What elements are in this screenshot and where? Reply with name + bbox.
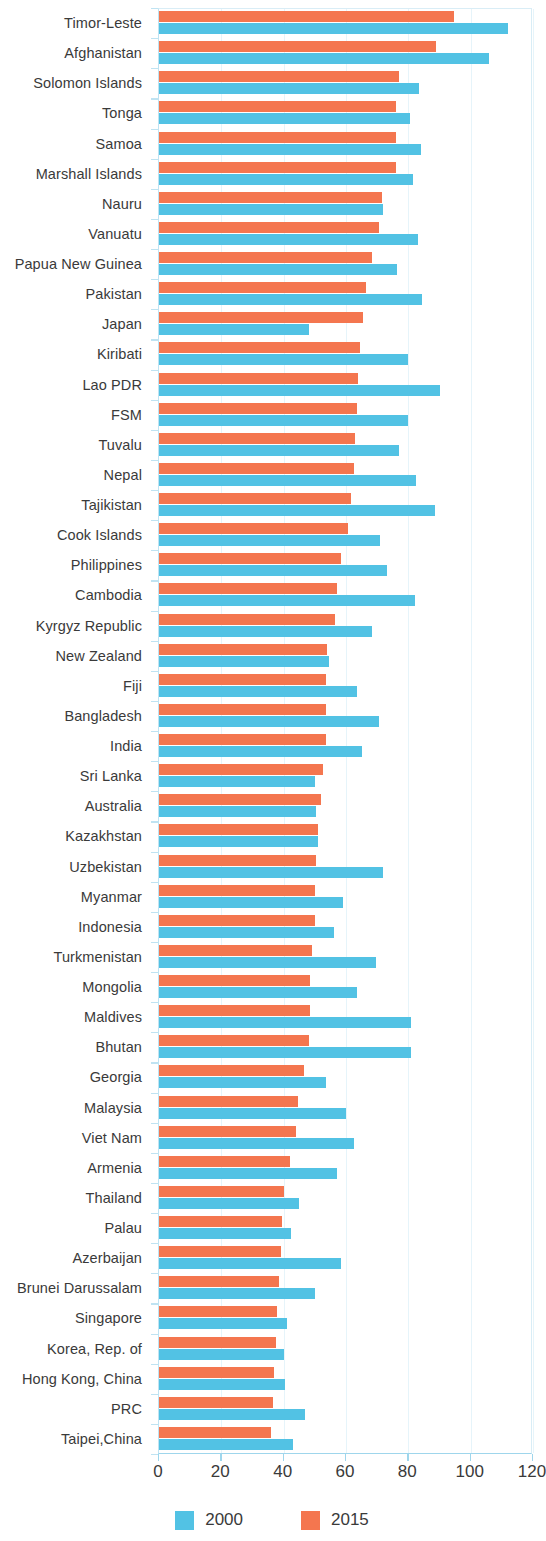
bar-2000[interactable] [159, 746, 362, 757]
bar-2015[interactable] [159, 373, 358, 384]
bar-2000[interactable] [159, 264, 397, 275]
bar-2015[interactable] [159, 553, 341, 564]
bar-2015[interactable] [159, 493, 351, 504]
bar-2015[interactable] [159, 644, 327, 655]
bar-2015[interactable] [159, 312, 363, 323]
bar-2000[interactable] [159, 1258, 341, 1269]
bar-2015[interactable] [159, 1427, 271, 1438]
bar-2000[interactable] [159, 174, 413, 185]
bar-2000[interactable] [159, 1198, 299, 1209]
bar-2000[interactable] [159, 867, 383, 878]
bar-2015[interactable] [159, 1126, 296, 1137]
bar-2015[interactable] [159, 132, 396, 143]
bar-2000[interactable] [159, 656, 329, 667]
legend-item-2000[interactable]: 2000 [175, 1510, 243, 1530]
bar-2000[interactable] [159, 505, 435, 516]
bar-2015[interactable] [159, 162, 396, 173]
bar-2015[interactable] [159, 1216, 282, 1227]
bar-2015[interactable] [159, 945, 312, 956]
bar-2015[interactable] [159, 704, 326, 715]
bar-2015[interactable] [159, 523, 348, 534]
bar-2000[interactable] [159, 836, 318, 847]
bar-2015[interactable] [159, 885, 315, 896]
bar-2000[interactable] [159, 1108, 346, 1119]
bar-2000[interactable] [159, 897, 343, 908]
legend-item-2015[interactable]: 2015 [301, 1510, 369, 1530]
bar-2015[interactable] [159, 282, 366, 293]
bar-2000[interactable] [159, 987, 357, 998]
bar-2015[interactable] [159, 824, 318, 835]
bar-2015[interactable] [159, 101, 396, 112]
bar-2000[interactable] [159, 83, 419, 94]
bar-2015[interactable] [159, 192, 382, 203]
bar-2000[interactable] [159, 415, 408, 426]
bar-2000[interactable] [159, 716, 379, 727]
bar-2015[interactable] [159, 1096, 298, 1107]
bar-2000[interactable] [159, 1017, 411, 1028]
bar-2000[interactable] [159, 927, 334, 938]
bar-2000[interactable] [159, 776, 315, 787]
bar-2000[interactable] [159, 957, 376, 968]
bar-2015[interactable] [159, 674, 326, 685]
bar-2015[interactable] [159, 1065, 304, 1076]
bar-2015[interactable] [159, 1156, 290, 1167]
bar-2000[interactable] [159, 354, 408, 365]
bar-2000[interactable] [159, 1047, 411, 1058]
bar-2015[interactable] [159, 1306, 277, 1317]
bar-2000[interactable] [159, 626, 372, 637]
bar-2000[interactable] [159, 53, 489, 64]
bar-2000[interactable] [159, 234, 418, 245]
bar-2015[interactable] [159, 252, 372, 263]
x-axis-tick [158, 1454, 159, 1461]
bar-2015[interactable] [159, 1397, 273, 1408]
bar-2000[interactable] [159, 1168, 337, 1179]
bar-2000[interactable] [159, 385, 440, 396]
bar-2015[interactable] [159, 1005, 310, 1016]
bar-2000[interactable] [159, 1349, 284, 1360]
bar-2000[interactable] [159, 144, 421, 155]
bar-2000[interactable] [159, 475, 416, 486]
bar-2015[interactable] [159, 1276, 279, 1287]
bar-2015[interactable] [159, 614, 335, 625]
bar-2015[interactable] [159, 222, 379, 233]
bar-2000[interactable] [159, 1077, 326, 1088]
bar-2000[interactable] [159, 1228, 291, 1239]
bar-2015[interactable] [159, 794, 321, 805]
bar-2015[interactable] [159, 433, 355, 444]
bar-2000[interactable] [159, 445, 399, 456]
bar-2015[interactable] [159, 1337, 276, 1348]
bar-2000[interactable] [159, 113, 410, 124]
bar-2015[interactable] [159, 915, 315, 926]
bar-2000[interactable] [159, 1379, 285, 1390]
bar-2000[interactable] [159, 1288, 315, 1299]
bar-2015[interactable] [159, 71, 399, 82]
bar-2000[interactable] [159, 204, 383, 215]
bar-2015[interactable] [159, 734, 326, 745]
bar-2015[interactable] [159, 855, 316, 866]
bar-2000[interactable] [159, 324, 309, 335]
bar-2015[interactable] [159, 975, 310, 986]
bar-2000[interactable] [159, 1439, 293, 1450]
bar-2015[interactable] [159, 1035, 309, 1046]
bar-2015[interactable] [159, 583, 337, 594]
bar-2000[interactable] [159, 686, 357, 697]
bar-2015[interactable] [159, 764, 323, 775]
bar-2015[interactable] [159, 403, 357, 414]
bar-2000[interactable] [159, 806, 316, 817]
bar-2000[interactable] [159, 595, 415, 606]
bar-2000[interactable] [159, 565, 387, 576]
bar-2015[interactable] [159, 342, 360, 353]
bar-2015[interactable] [159, 11, 454, 22]
y-axis-tick [151, 520, 158, 521]
bar-2000[interactable] [159, 1409, 305, 1420]
bar-2015[interactable] [159, 41, 436, 52]
bar-2000[interactable] [159, 1318, 287, 1329]
bar-2000[interactable] [159, 535, 380, 546]
bar-2015[interactable] [159, 1246, 281, 1257]
bar-2000[interactable] [159, 1138, 354, 1149]
bar-2000[interactable] [159, 23, 508, 34]
bar-2015[interactable] [159, 463, 354, 474]
bar-2015[interactable] [159, 1367, 274, 1378]
bar-2000[interactable] [159, 294, 422, 305]
bar-2015[interactable] [159, 1186, 284, 1197]
